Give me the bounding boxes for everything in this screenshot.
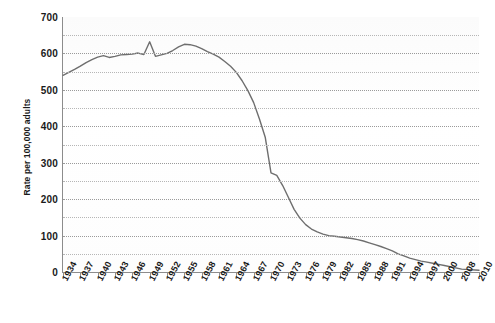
- x-axis-tick-label: 1991: [389, 260, 408, 283]
- x-axis-tick-label: 1994: [407, 260, 426, 283]
- x-axis-tick-label: 1988: [372, 260, 391, 283]
- x-axis-tick-label: 1997: [424, 260, 443, 283]
- x-axis-tick-label: 1949: [147, 260, 166, 283]
- x-axis-tick-label: 1964: [233, 260, 252, 283]
- x-axis-tick-label: 1973: [285, 260, 304, 283]
- x-axis-tick-label: 1985: [355, 260, 374, 283]
- x-axis-tick-label: 2010: [476, 260, 495, 283]
- x-axis-tick-label: 1961: [216, 260, 235, 283]
- x-axis-tick-label: 1946: [129, 260, 148, 283]
- x-axis-tick-label: 1934: [60, 260, 79, 283]
- x-axis-tick-label: 2008: [459, 260, 478, 283]
- x-axis-tick-label: 1958: [199, 260, 218, 283]
- x-axis-tick-label: 1937: [77, 260, 96, 283]
- x-axis-tick-label: 1976: [303, 260, 322, 283]
- x-axis-tick-label: 1955: [181, 260, 200, 283]
- x-axis-tick-label: 1970: [268, 260, 287, 283]
- x-axis-tick-label: 1943: [112, 260, 131, 283]
- x-axis-tick-label: 1952: [164, 260, 183, 283]
- x-axis-tick-label: 1967: [251, 260, 270, 283]
- x-axis-tick-label: 2000: [441, 260, 460, 283]
- x-axis-tick-label: 1940: [95, 260, 114, 283]
- x-axis-tick-label: 1982: [337, 260, 356, 283]
- x-axis-tick-label: 1979: [320, 260, 339, 283]
